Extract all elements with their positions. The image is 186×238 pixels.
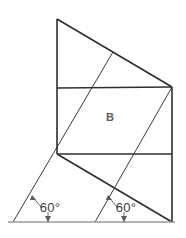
top-hypotenuse xyxy=(57,19,172,87)
angle-left-arrow-upper xyxy=(30,195,36,200)
base-diagonal xyxy=(57,154,172,222)
angle-label-left: 60° xyxy=(40,200,60,215)
geometry-diagram: B 60° 60° xyxy=(0,0,186,238)
angle-label-right: 60° xyxy=(116,200,136,215)
incline-line-left xyxy=(13,52,113,222)
region-label-b: B xyxy=(106,111,114,123)
geometry-figure-svg: B 60° 60° xyxy=(0,0,186,238)
angle-right-arrow-upper xyxy=(106,195,112,200)
angle-left-arrow-lower xyxy=(45,216,51,222)
angle-right-arrow-lower xyxy=(121,216,127,222)
upper-horizontal xyxy=(57,87,172,88)
